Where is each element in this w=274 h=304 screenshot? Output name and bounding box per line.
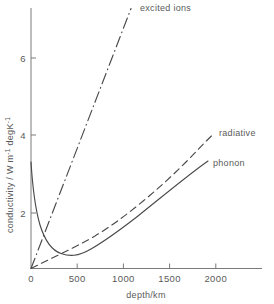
x-axis-tick-labels: 0 500 1000 1500 2000 (28, 273, 227, 284)
y-axis-title-mid: degK (5, 123, 15, 148)
y-axis-title-sup2: -1 (4, 117, 11, 123)
x-tick-label-1500: 1500 (158, 273, 181, 284)
chart-canvas: 2 4 6 0 500 1000 1500 2000 depth/km cond… (0, 0, 274, 304)
series-line-phonon (31, 161, 208, 255)
y-tick-label-6: 6 (20, 53, 26, 64)
series-label-radiative: radiative (219, 128, 256, 138)
x-tick-label-500: 500 (69, 273, 86, 284)
y-axis-title: conductivity / W m-1 degK-1 (4, 117, 15, 233)
x-axis-title: depth/km (126, 290, 165, 300)
series-line-radiative (31, 134, 214, 269)
y-axis-tick-labels: 2 4 6 (20, 53, 26, 219)
conductivity-depth-figure: 2 4 6 0 500 1000 1500 2000 depth/km cond… (0, 0, 274, 304)
x-tick-label-0: 0 (28, 273, 34, 284)
y-tick-label-4: 4 (20, 130, 26, 141)
x-tick-label-2000: 2000 (204, 273, 227, 284)
x-tick-label-1000: 1000 (112, 273, 135, 284)
y-axis-title-main: conductivity / W m (5, 155, 15, 233)
series-label-phonon: phonon (213, 158, 245, 168)
svg-text:conductivity / W m-1 degK-1: conductivity / W m-1 degK-1 (4, 117, 15, 233)
x-axis-ticks (77, 264, 216, 269)
y-tick-label-2: 2 (20, 208, 26, 219)
series-label-excited-ions: excited ions (140, 3, 191, 13)
series-line-excited-ions (31, 9, 131, 269)
